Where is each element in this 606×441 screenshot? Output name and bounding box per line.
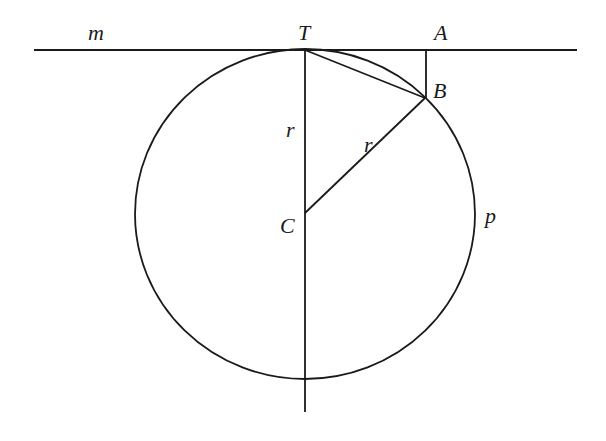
label-b: B [433, 78, 446, 103]
label-c: C [280, 213, 295, 238]
label-r-vertical: r [286, 117, 295, 142]
chord-tb [305, 50, 425, 98]
label-t: T [298, 20, 312, 45]
geometry-diagram: m T A B C r r p [0, 0, 606, 441]
diagram-canvas: m T A B C r r p [0, 0, 606, 441]
label-r-diagonal: r [364, 132, 373, 157]
label-p: p [483, 203, 496, 228]
label-a: A [432, 20, 448, 45]
label-m: m [88, 20, 104, 45]
